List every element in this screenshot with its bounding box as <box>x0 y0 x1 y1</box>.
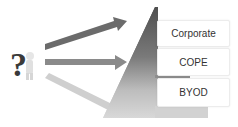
level-label: BYOD <box>179 87 207 98</box>
level-corporate: Corporate <box>157 20 230 47</box>
arrow-top <box>45 17 127 50</box>
arrow-mid <box>45 55 127 70</box>
level-label: COPE <box>179 57 207 68</box>
level-label: Corporate <box>171 28 215 39</box>
question-mark-person-icon: ? <box>10 46 34 83</box>
svg-text:?: ? <box>10 46 27 83</box>
level-cope: COPE <box>157 48 230 76</box>
arrow-low <box>45 73 112 110</box>
level-byod: BYOD <box>157 78 230 107</box>
